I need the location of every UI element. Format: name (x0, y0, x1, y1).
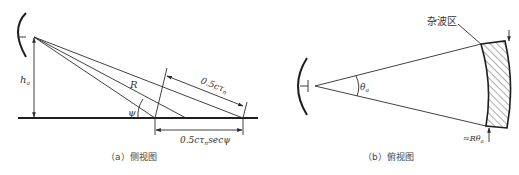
clutter-region (481, 41, 511, 128)
beamwidth-label: θa (360, 82, 369, 93)
ray-mid (34, 37, 186, 118)
ray-far (34, 37, 243, 118)
pulse-length-label: 0.5cτn (199, 76, 229, 96)
ground-extent-label: 0.5cτnsecψ (180, 135, 231, 146)
antenna-icon-top (298, 58, 308, 115)
beam-edge-lower (315, 86, 486, 126)
clutter-region-label: 杂波区 (427, 15, 457, 27)
cross-range-label: ≈Rθa (463, 134, 484, 144)
extension-line-near (155, 68, 167, 118)
side-view-caption: （a）侧视图 (106, 151, 157, 162)
side-view-panel: ha R ψ 0.5cτn 0.5cτnsecψ （a）侧视图 (18, 13, 258, 162)
top-view-caption: （b）俯视图 (363, 151, 414, 162)
beamwidth-arc (356, 76, 359, 96)
beam-edge-upper (315, 44, 481, 86)
grazing-angle-label: ψ (128, 107, 136, 118)
radar-clutter-geometry-diagram: ha R ψ 0.5cτn 0.5cτnsecψ （a）侧视图 (0, 0, 519, 175)
ray-near (34, 37, 155, 118)
antenna-icon (18, 13, 26, 57)
clutter-leader-line (458, 24, 482, 45)
height-label: ha (20, 74, 30, 86)
range-label: R (129, 79, 138, 90)
extension-line-far (243, 102, 247, 118)
top-view-panel: θa 杂波区 ≈Rθa （b）俯视图 (298, 15, 511, 162)
